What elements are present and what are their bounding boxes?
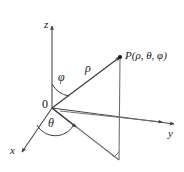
right-angle-marker bbox=[107, 150, 120, 157]
point-p-label: P(ρ, θ, φ) bbox=[125, 50, 167, 61]
x-axis-line bbox=[22, 108, 52, 152]
horizontal-chord-segment bbox=[60, 111, 162, 122]
origin-label: 0 bbox=[42, 98, 48, 110]
rho-label: ρ bbox=[85, 62, 91, 74]
diagram-canvas bbox=[0, 0, 184, 172]
z-axis-label: z bbox=[44, 19, 48, 30]
phi-angle-label: φ bbox=[58, 71, 65, 83]
point-p-dot bbox=[118, 55, 122, 59]
vertical-drop-segment bbox=[119, 57, 120, 160]
phi-angle-arc bbox=[52, 84, 69, 96]
theta-angle-label: θ bbox=[48, 117, 54, 129]
spherical-coordinates-figure: z y x 0 φ θ ρ P(ρ, θ, φ) bbox=[0, 0, 184, 172]
theta-angle-arc bbox=[37, 125, 73, 136]
x-axis-label: x bbox=[10, 145, 15, 156]
segment-group bbox=[52, 57, 162, 160]
y-axis-label: y bbox=[168, 128, 173, 139]
